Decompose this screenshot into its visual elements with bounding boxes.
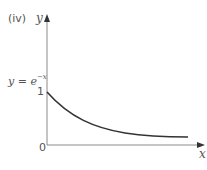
y-axis-arrow-icon	[44, 14, 50, 22]
curve-exp-neg-x	[47, 92, 188, 137]
curve-label-text: y = e	[8, 75, 37, 88]
origin-label: 0	[39, 142, 46, 153]
panel-label: (iv)	[8, 13, 26, 24]
y-intercept-label: 1	[37, 86, 44, 97]
x-axis-label: x	[199, 148, 206, 160]
y-axis-label: y	[36, 12, 43, 24]
curve-label-exponent: −x	[37, 73, 47, 81]
